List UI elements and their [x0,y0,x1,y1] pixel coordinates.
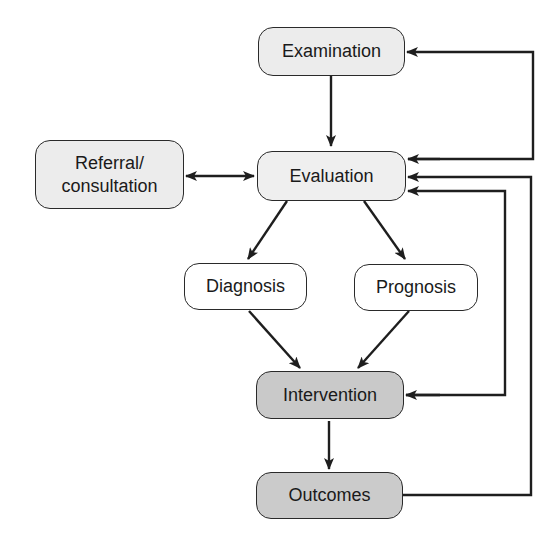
node-diagnosis: Diagnosis [184,263,307,310]
arrow-evaluation-to-diagnosis [248,201,287,259]
node-prognosis: Prognosis [354,264,478,311]
node-outcomes: Outcomes [256,472,403,519]
arrow-evaluation-to-prognosis [364,201,405,259]
flowchart-canvas: Examination Evaluation Referral/ consult… [0,0,551,533]
arrow-prognosis-to-intervention [358,311,409,368]
loop-outcomes-to-evaluation [403,177,531,495]
node-evaluation: Evaluation [257,151,406,201]
loop-evaluation-to-examination [407,52,533,159]
node-referral-consultation: Referral/ consultation [35,140,184,209]
arrow-diagnosis-to-intervention [249,311,300,368]
node-intervention: Intervention [256,371,404,419]
node-examination: Examination [258,27,405,76]
